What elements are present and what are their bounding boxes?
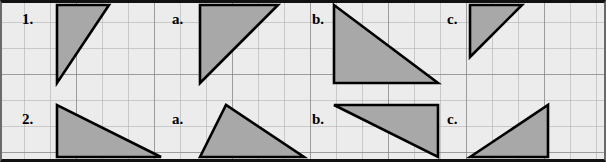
label-1: 1. [22, 12, 33, 27]
label-1a: a. [172, 12, 183, 27]
worksheet-canvas: 1.a.b.c.2.a.b.c. [0, 0, 606, 162]
label-2a: a. [172, 112, 183, 127]
triangle-1a [200, 5, 278, 83]
label-2b: b. [312, 112, 324, 127]
triangle-2c [470, 105, 548, 157]
triangle-2a [200, 105, 304, 157]
triangle-shape-layer [0, 0, 606, 162]
triangle-1c [470, 5, 522, 57]
label-2: 2. [22, 112, 33, 127]
triangle-2 [57, 105, 161, 157]
triangle-1 [57, 5, 109, 83]
label-1b: b. [312, 12, 324, 27]
triangle-1b [334, 5, 438, 83]
label-1c: c. [447, 12, 457, 27]
label-2c: c. [447, 112, 457, 127]
triangle-2b [334, 105, 438, 157]
